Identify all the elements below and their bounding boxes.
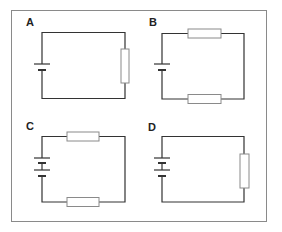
- panel-label-c: C: [26, 120, 34, 132]
- battery-cell-icon: [34, 64, 50, 70]
- battery-two-cells-icon: [154, 158, 170, 176]
- resistor-icon: [240, 154, 249, 188]
- resistor-icon: [121, 49, 129, 83]
- wire: [162, 34, 244, 100]
- panel-label-d: D: [148, 121, 156, 133]
- wire: [162, 137, 244, 203]
- resistor-icon: [188, 95, 221, 104]
- resistor-icon: [188, 29, 221, 38]
- panel-label-a: A: [26, 16, 34, 28]
- circuit-d: D: [148, 121, 249, 202]
- circuit-a: A: [26, 16, 129, 99]
- wire: [42, 33, 125, 99]
- figure-border: [12, 11, 267, 222]
- resistor-icon: [67, 132, 99, 141]
- resistor-icon: [67, 198, 99, 207]
- battery-two-cells-icon: [34, 158, 50, 176]
- circuit-diagrams-figure: A B C D: [0, 0, 282, 232]
- battery-cell-icon: [154, 64, 170, 70]
- circuit-b: B: [149, 16, 244, 104]
- panel-label-b: B: [149, 16, 157, 28]
- circuit-c: C: [26, 120, 125, 207]
- wire: [42, 137, 125, 203]
